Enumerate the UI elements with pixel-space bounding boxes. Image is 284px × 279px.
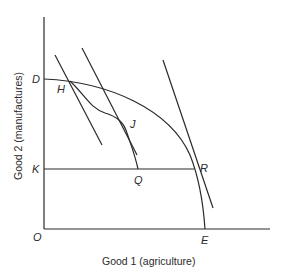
label-h: H bbox=[57, 83, 65, 95]
inner-curve bbox=[70, 81, 138, 169]
label-e: E bbox=[201, 234, 209, 246]
label-origin: O bbox=[33, 231, 42, 243]
label-d: D bbox=[32, 73, 40, 85]
x-axis-title: Good 1 (agriculture) bbox=[102, 255, 195, 267]
price-line-at-r bbox=[163, 60, 213, 208]
label-r: R bbox=[200, 162, 208, 174]
diagram-canvas: D H J K Q R E O Good 1 (agriculture) Goo… bbox=[0, 0, 284, 279]
label-k: K bbox=[32, 163, 40, 175]
label-q: Q bbox=[134, 174, 143, 186]
production-possibility-frontier bbox=[44, 79, 205, 229]
price-line-at-j bbox=[82, 48, 137, 155]
price-line-at-h bbox=[55, 55, 102, 145]
label-j: J bbox=[129, 118, 136, 130]
y-axis-title: Good 2 (manufactures) bbox=[12, 72, 24, 180]
